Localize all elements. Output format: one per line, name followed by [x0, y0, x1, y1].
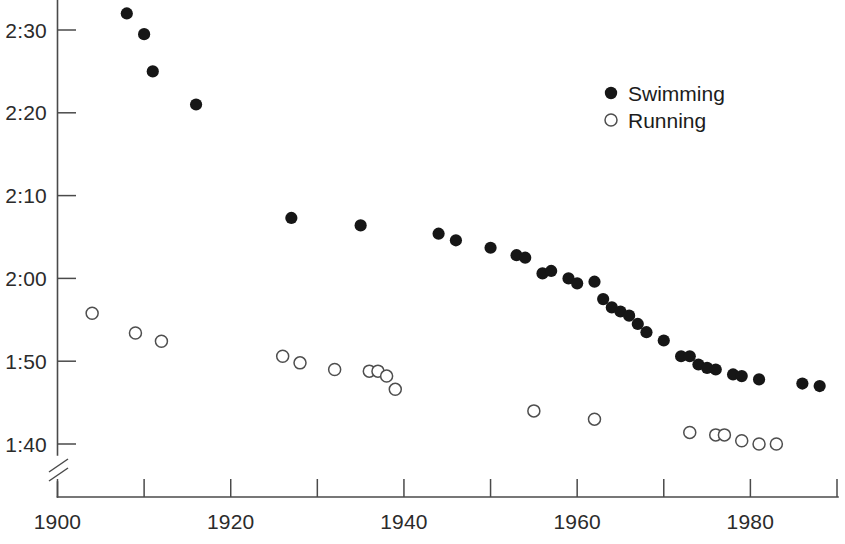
data-point-running: [588, 413, 600, 425]
series-swimming-points: [121, 7, 826, 392]
y-tick-label: 1:40: [5, 433, 47, 456]
data-point-running: [329, 363, 341, 375]
plot-canvas: 2:302:202:102:001:501:40 190019201940196…: [0, 0, 845, 544]
data-point-swimming: [571, 277, 583, 289]
data-point-running: [718, 429, 730, 441]
data-point-running: [770, 438, 782, 450]
data-point-swimming: [450, 234, 462, 246]
data-point-swimming: [519, 252, 531, 264]
data-point-swimming: [658, 334, 670, 346]
data-point-swimming: [736, 370, 748, 382]
data-point-swimming: [588, 276, 600, 288]
scatter-chart-figure: 2:302:202:102:001:501:40 190019201940196…: [0, 0, 845, 544]
data-point-swimming: [138, 28, 150, 40]
data-point-running: [528, 405, 540, 417]
data-point-swimming: [710, 363, 722, 375]
data-point-swimming: [432, 228, 444, 240]
x-tick-label: 1940: [380, 510, 428, 533]
data-point-running: [129, 327, 141, 339]
chart-legend: Swimming Running: [605, 82, 725, 132]
legend-label-swimming: Swimming: [628, 82, 725, 105]
data-point-running: [86, 307, 98, 319]
data-point-running: [294, 357, 306, 369]
y-tick-label: 1:50: [5, 350, 47, 373]
y-tick-label: 2:00: [5, 267, 47, 290]
data-point-swimming: [285, 212, 297, 224]
x-tick-label: 1960: [553, 510, 601, 533]
data-point-swimming: [796, 377, 808, 389]
y-tick-label: 2:10: [5, 184, 47, 207]
y-axis-ticks: [58, 30, 77, 444]
data-point-running: [389, 383, 401, 395]
data-point-swimming: [355, 219, 367, 231]
x-axis-ticks: [58, 479, 838, 497]
data-point-swimming: [753, 373, 765, 385]
data-point-running: [684, 426, 696, 438]
y-tick-label: 2:30: [5, 19, 47, 42]
x-axis-tick-labels: 19001920194019601980: [34, 510, 774, 533]
x-tick-label: 1900: [34, 510, 82, 533]
data-point-swimming: [484, 242, 496, 254]
axes: [49, 0, 838, 497]
data-point-swimming: [121, 7, 133, 19]
data-point-running: [753, 438, 765, 450]
data-point-running: [277, 350, 289, 362]
series-running-points: [86, 307, 782, 450]
data-point-swimming: [814, 380, 826, 392]
legend-label-running: Running: [628, 109, 706, 132]
x-tick-label: 1920: [207, 510, 255, 533]
data-point-swimming: [545, 265, 557, 277]
y-axis-tick-labels: 2:302:202:102:001:501:40: [5, 19, 47, 456]
data-point-swimming: [190, 98, 202, 110]
x-tick-label: 1980: [727, 510, 775, 533]
data-point-running: [736, 435, 748, 447]
y-tick-label: 2:20: [5, 101, 47, 124]
data-point-running: [155, 335, 167, 347]
data-point-swimming: [640, 326, 652, 338]
data-point-swimming: [147, 65, 159, 77]
legend-marker-running: [605, 114, 617, 126]
legend-marker-swimming: [605, 87, 617, 99]
data-point-running: [381, 370, 393, 382]
axis-break-marks: [49, 459, 68, 481]
